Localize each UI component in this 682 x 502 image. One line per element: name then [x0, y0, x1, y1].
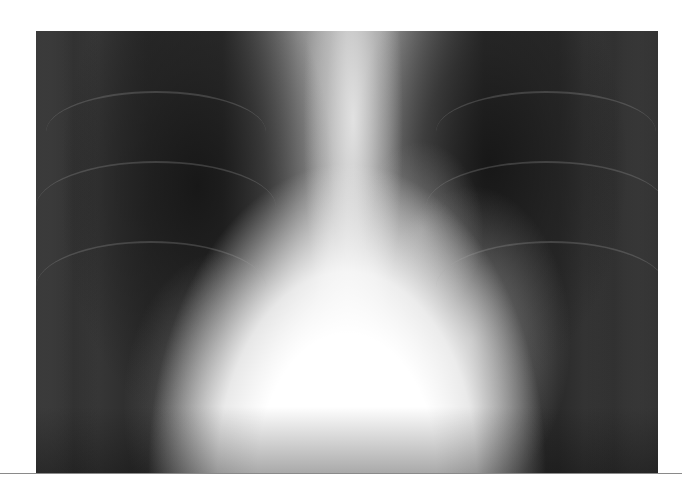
divider-line	[0, 473, 682, 474]
rib-shadow	[426, 161, 658, 253]
chest-xray-image	[36, 31, 658, 473]
rib-shadow	[36, 241, 266, 333]
rib-shadow	[436, 241, 658, 333]
rib-shadow	[36, 161, 276, 253]
